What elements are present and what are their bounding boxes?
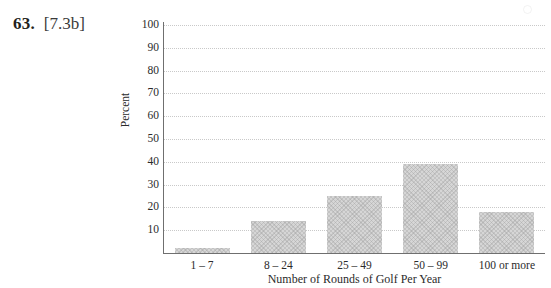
y-tick-label: 100	[125, 19, 159, 31]
x-tick-label: 25 – 49	[316, 258, 392, 272]
bar	[479, 212, 534, 253]
y-tick-label: 10	[125, 224, 159, 236]
y-tick-label: 60	[125, 110, 159, 122]
gridline-100	[164, 25, 545, 26]
gridline-30	[164, 185, 545, 186]
x-tick-label: 50 – 99	[393, 258, 469, 272]
gridline-60	[164, 116, 545, 117]
y-axis-tick-labels: 100908070605040302010	[121, 25, 159, 253]
gridline-40	[164, 162, 545, 163]
y-tick-label: 70	[125, 87, 159, 99]
x-tick-label: 8 – 24	[240, 258, 316, 272]
y-tick-label: 80	[125, 65, 159, 77]
bar-chart-figure: Percent 100908070605040302010 1 – 78 – 2…	[0, 0, 551, 288]
gridline-50	[164, 139, 545, 140]
y-tick-label: 50	[125, 133, 159, 145]
bar	[251, 221, 306, 253]
y-tick-label: 90	[125, 42, 159, 54]
plot-area	[164, 25, 545, 253]
x-tick-label: 1 – 7	[164, 258, 240, 272]
bar	[327, 196, 382, 253]
x-tick-label: 100 or more	[469, 258, 545, 272]
gridline-80	[164, 71, 545, 72]
y-tick-label: 40	[125, 156, 159, 168]
bar	[403, 164, 458, 253]
y-tick-label: 30	[125, 179, 159, 191]
gridline-90	[164, 48, 545, 49]
gridline-70	[164, 93, 545, 94]
scan-artifact-speck	[523, 5, 532, 14]
y-tick-label: 20	[125, 201, 159, 213]
x-axis-title: Number of Rounds of Golf Per Year	[164, 272, 545, 286]
x-axis-line	[163, 253, 545, 254]
